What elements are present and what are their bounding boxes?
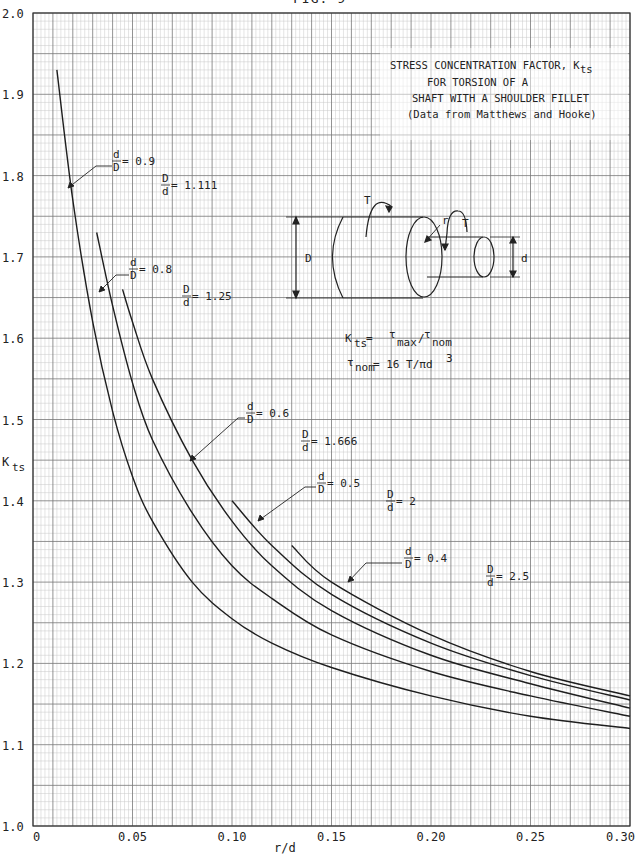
svg-text:= 1.111: = 1.111 [171, 179, 217, 192]
svg-text:K: K [345, 332, 352, 345]
svg-text:d: d [487, 576, 494, 589]
fraction-label: dD= 0.8 [129, 256, 172, 282]
svg-text:D: D [302, 428, 309, 441]
svg-text:D: D [247, 413, 254, 426]
svg-text:= 0.8: = 0.8 [139, 263, 172, 276]
svg-text:= 16 T/πd: = 16 T/πd [373, 358, 433, 371]
formula-kts: K ts = τ max / τ nom [345, 328, 452, 350]
chart-title: STRESS CONCENTRATION FACTOR, K ts FOR TO… [380, 48, 628, 140]
svg-text:r: r [442, 214, 449, 227]
y-axis-ticks: 1.01.11.21.31.41.51.61.71.81.92.0 [2, 7, 24, 834]
svg-text:= 0.9: = 0.9 [122, 155, 155, 168]
x-tick-label: 0.20 [417, 830, 446, 844]
x-axis-ticks: 00.050.100.150.200.250.30 [33, 830, 635, 844]
svg-text:D: D [305, 252, 312, 265]
svg-text:(Data from Matthews and Hooke): (Data from Matthews and Hooke) [407, 108, 597, 120]
curve-3 [123, 289, 630, 708]
x-tick-label: 0.30 [606, 830, 635, 844]
y-tick-label: 1.0 [2, 820, 24, 834]
svg-text:τ: τ [424, 328, 431, 341]
y-tick-label: 1.2 [2, 657, 24, 671]
svg-text:= 2: = 2 [396, 495, 416, 508]
svg-text:= 1.666: = 1.666 [311, 435, 357, 448]
svg-text:d: d [521, 252, 528, 265]
x-tick-label: 0.25 [516, 830, 545, 844]
svg-text:D: D [387, 488, 394, 501]
x-tick-label: 0.05 [118, 830, 147, 844]
svg-text:nom: nom [432, 336, 452, 349]
svg-text:K: K [2, 455, 10, 469]
svg-text:= 2.5: = 2.5 [496, 570, 529, 583]
svg-text:D: D [113, 161, 120, 174]
svg-text:= 1.25: = 1.25 [192, 290, 232, 303]
label-leaders [68, 166, 402, 582]
y-tick-label: 1.5 [2, 414, 24, 428]
svg-text:d: d [302, 441, 309, 454]
svg-text:max: max [397, 336, 417, 349]
y-tick-label: 1.9 [2, 88, 24, 102]
fraction-label: dD= 0.5 [317, 470, 360, 496]
curve-5 [292, 546, 630, 696]
y-tick-label: 2.0 [2, 7, 24, 21]
svg-text:D: D [487, 563, 494, 576]
svg-text:ts: ts [12, 461, 25, 474]
svg-text:T: T [462, 217, 469, 230]
svg-text:τ: τ [389, 328, 396, 341]
svg-text:d: d [387, 501, 394, 514]
fraction-label: dD= 0.6 [246, 400, 289, 426]
x-axis-label: r/d [274, 841, 296, 855]
svg-text:STRESS CONCENTRATION FACTOR, K: STRESS CONCENTRATION FACTOR, K [390, 59, 580, 71]
y-tick-label: 1.3 [2, 576, 24, 590]
svg-text:τ: τ [347, 356, 354, 369]
svg-text:d: d [130, 256, 137, 269]
svg-text:= 0.5: = 0.5 [327, 477, 360, 490]
x-tick-label: 0 [33, 830, 40, 844]
svg-text:SHAFT WITH A SHOULDER FILLET: SHAFT WITH A SHOULDER FILLET [412, 92, 590, 104]
svg-text:D: D [162, 172, 169, 185]
y-tick-label: 1.7 [2, 251, 24, 265]
svg-text:FOR TORSION OF A: FOR TORSION OF A [427, 76, 529, 88]
svg-text:3: 3 [446, 352, 453, 365]
svg-text:T: T [364, 194, 371, 207]
svg-text:D: D [318, 483, 325, 496]
svg-text:= 0.6: = 0.6 [256, 407, 289, 420]
svg-text:ts: ts [580, 63, 593, 75]
svg-text:D: D [183, 283, 190, 296]
stress-concentration-chart: 1.01.11.21.31.41.51.61.71.81.92.0 00.050… [0, 0, 639, 857]
fraction-label: Dd= 1.666 [301, 428, 357, 454]
svg-text:d: d [162, 185, 169, 198]
y-tick-label: 1.8 [2, 170, 24, 184]
y-tick-label: 1.1 [2, 739, 24, 753]
svg-text:d: d [183, 296, 190, 309]
x-tick-label: 0.15 [317, 830, 346, 844]
x-tick-label: 0.10 [218, 830, 247, 844]
svg-text:d: d [318, 470, 325, 483]
svg-text:D: D [130, 269, 137, 282]
svg-text:= 0.4: = 0.4 [414, 552, 447, 565]
y-tick-label: 1.6 [2, 332, 24, 346]
svg-text:d: d [405, 545, 412, 558]
svg-text:=: = [366, 332, 373, 345]
y-tick-label: 1.4 [2, 495, 24, 509]
svg-text:D: D [405, 558, 412, 571]
svg-text:d: d [113, 148, 120, 161]
fraction-label: dD= 0.4 [404, 545, 447, 571]
curve-labels: dD= 0.9Dd= 1.111dD= 0.8Dd= 1.25dD= 0.6Dd… [112, 148, 529, 589]
svg-text:d: d [247, 400, 254, 413]
y-axis-label: K ts [2, 455, 25, 474]
